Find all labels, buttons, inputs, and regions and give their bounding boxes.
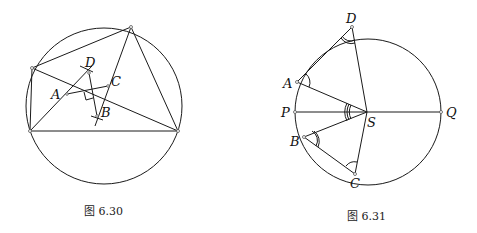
geometry-figures: D C A B 图 6.30 D A P S xyxy=(0,0,477,233)
label-Q: Q xyxy=(446,105,457,120)
label-D: D xyxy=(345,11,357,26)
caption-6-31: 图 6.31 xyxy=(347,210,386,223)
label-B: B xyxy=(100,105,111,120)
label-A: A xyxy=(282,76,292,91)
segment-BS xyxy=(304,112,367,137)
label-C: C xyxy=(111,74,121,89)
figure-6-30: D C A B 图 6.30 xyxy=(26,26,182,219)
segment-AC xyxy=(67,86,108,94)
segment-CS xyxy=(355,112,367,174)
angle-arc-D xyxy=(342,36,355,41)
label-D: D xyxy=(84,55,96,70)
segment-BC xyxy=(304,137,355,174)
angle-arc-C xyxy=(346,162,357,166)
bisector-line xyxy=(30,66,92,131)
caption-6-30: 图 6.30 xyxy=(84,205,123,218)
figure-6-31: D A P S Q B C 图 6.31 xyxy=(280,11,457,223)
label-A: A xyxy=(50,87,60,102)
label-C: C xyxy=(350,176,360,191)
label-B: B xyxy=(289,134,300,149)
angle-arc-A xyxy=(306,74,310,87)
segment-AS xyxy=(297,82,367,112)
segment-AD xyxy=(297,27,352,82)
label-S: S xyxy=(367,115,376,130)
segment-DB xyxy=(89,73,97,116)
label-P: P xyxy=(280,105,290,120)
